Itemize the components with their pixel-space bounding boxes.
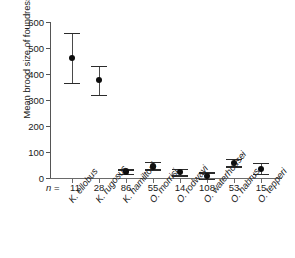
y-tick-mark (46, 74, 50, 75)
sample-size-equals: = (51, 182, 59, 193)
y-tick-mark (46, 126, 50, 127)
error-bar-cap-upper (253, 163, 269, 164)
x-axis-category-labels: K. ellobusK. rugosusK. hamiltoniO. morri… (50, 198, 295, 258)
y-tick-mark (46, 152, 50, 153)
y-tick-label: 500 (28, 43, 44, 54)
error-bar-cap-upper (64, 33, 80, 34)
y-tick-mark (46, 22, 50, 23)
y-axis-line (50, 22, 51, 178)
data-point-marker (69, 55, 75, 61)
y-tick-label: 400 (28, 69, 44, 80)
y-tick-mark (46, 100, 50, 101)
error-bar-cap-lower (64, 83, 80, 84)
error-bar-cap-upper (91, 66, 107, 67)
sample-size-prefix: n = (46, 182, 59, 193)
y-tick-label: 0 (39, 173, 44, 184)
y-tick-label: 600 (28, 17, 44, 28)
error-bar-cap-lower (91, 95, 107, 96)
y-tick-mark (46, 178, 50, 179)
y-tick-label: 300 (28, 95, 44, 106)
y-tick-mark (46, 48, 50, 49)
y-tick-label: 100 (28, 147, 44, 158)
chart-figure: Mean brood size of foundress 01002003004… (0, 0, 295, 258)
data-point-marker (96, 77, 102, 83)
y-tick-label: 200 (28, 121, 44, 132)
